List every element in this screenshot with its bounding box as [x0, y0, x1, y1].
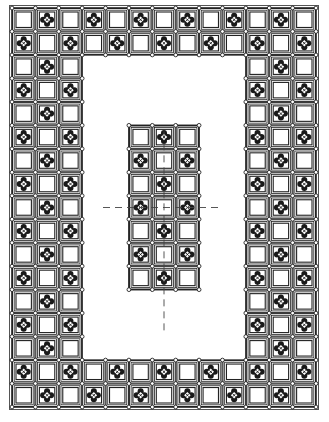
grid-node [57, 405, 61, 409]
plain-tile [293, 337, 315, 359]
plain-tile [13, 384, 35, 406]
grid-node [33, 30, 37, 34]
grid-node [314, 264, 318, 268]
grid-node [150, 241, 154, 245]
grid-node [197, 170, 201, 174]
plain-tile [129, 220, 151, 242]
grid-node [33, 77, 37, 81]
grid-node [291, 382, 295, 386]
grid-node [174, 405, 178, 409]
plain-tile [13, 243, 35, 265]
grid-node [174, 288, 178, 292]
grid-node [80, 241, 84, 245]
grid-node [10, 194, 14, 198]
grid-node [57, 100, 61, 104]
quatrefoil-tile [293, 267, 315, 289]
grid-node [291, 147, 295, 151]
grid-node [33, 217, 37, 221]
grid-node [127, 30, 131, 34]
grid-node [291, 30, 295, 34]
grid-node [267, 123, 271, 127]
quatrefoil-tile [13, 173, 35, 195]
plain-tile [59, 196, 81, 218]
grid-node [174, 147, 178, 151]
grid-node [244, 335, 248, 339]
grid-node [33, 170, 37, 174]
grid-node [314, 358, 318, 362]
quatrefoil-tile [176, 384, 198, 406]
grid-node [57, 288, 61, 292]
quatrefoil-tile [153, 361, 175, 383]
plain-tile [36, 32, 58, 54]
grid-node [127, 264, 131, 268]
grid-node [291, 170, 295, 174]
quatrefoil-tile [246, 79, 268, 101]
grid-node [221, 53, 225, 57]
quatrefoil-tile [36, 384, 58, 406]
quatrefoil-tile [270, 9, 292, 31]
grid-node [104, 405, 108, 409]
plain-tile [270, 79, 292, 101]
grid-node [57, 147, 61, 151]
quatrefoil-tile [13, 32, 35, 54]
plain-tile [13, 55, 35, 77]
grid-node [244, 241, 248, 245]
plain-tile [106, 9, 128, 31]
grid-node [197, 382, 201, 386]
grid-node [80, 6, 84, 10]
plain-tile [246, 384, 268, 406]
grid-node [197, 217, 201, 221]
grid-node [291, 194, 295, 198]
grid-node [150, 147, 154, 151]
grid-node [291, 77, 295, 81]
grid-node [80, 123, 84, 127]
grid-node [197, 194, 201, 198]
quatrefoil-tile [246, 220, 268, 242]
quatrefoil-tile [13, 361, 35, 383]
plain-tile [13, 196, 35, 218]
quatrefoil-tile [36, 337, 58, 359]
grid-node [127, 405, 131, 409]
grid-node [267, 217, 271, 221]
grid-node [57, 6, 61, 10]
grid-node [314, 288, 318, 292]
plain-tile [13, 337, 35, 359]
grid-node [80, 335, 84, 339]
grid-node [291, 311, 295, 315]
grid-node [57, 264, 61, 268]
quatrefoil-tile [293, 220, 315, 242]
grid-node [267, 53, 271, 57]
grid-node [150, 123, 154, 127]
quatrefoil-tile [223, 384, 245, 406]
grid-node [127, 170, 131, 174]
grid-node [10, 335, 14, 339]
grid-node [314, 100, 318, 104]
grid-node [10, 405, 14, 409]
quatrefoil-tile [106, 32, 128, 54]
grid-node [150, 194, 154, 198]
quatrefoil-tile [13, 314, 35, 336]
grid-node [267, 194, 271, 198]
plain-tile [36, 126, 58, 148]
grid-node [244, 194, 248, 198]
quatrefoil-tile [246, 32, 268, 54]
grid-node [33, 194, 37, 198]
grid-node [33, 288, 37, 292]
grid-node [57, 30, 61, 34]
quatrefoil-tile [270, 337, 292, 359]
grid-node [10, 147, 14, 151]
grid-node [314, 147, 318, 151]
grid-node [57, 123, 61, 127]
grid-node [267, 382, 271, 386]
grid-node [244, 264, 248, 268]
plain-tile [129, 126, 151, 148]
grid-node [314, 217, 318, 221]
plain-tile [293, 243, 315, 265]
plain-tile [129, 32, 151, 54]
quatrefoil-tile [293, 126, 315, 148]
grid-node [221, 405, 225, 409]
grid-node [10, 382, 14, 386]
grid-node [127, 382, 131, 386]
grid-node [104, 358, 108, 362]
grid-node [267, 77, 271, 81]
